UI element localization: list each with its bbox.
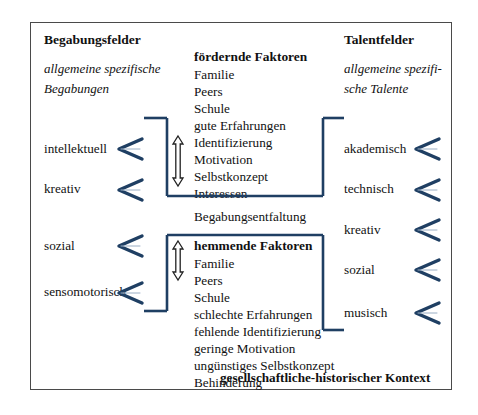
hindering-factor-item: Schule xyxy=(194,291,230,304)
left-field-intellektuell: intellektuell xyxy=(44,142,107,155)
hindering-factor-item: fehlende Identifizierung xyxy=(194,325,321,338)
hindering-factor-item: geringe Motivation xyxy=(194,342,295,355)
begabungsentfaltung-label: Begabungsentfaltung xyxy=(194,210,306,223)
right-subtitle-line-1: allgemeine spezifi- xyxy=(344,62,442,75)
promoting-factor-item: Interessen xyxy=(194,187,247,200)
right-field-akademisch: akademisch xyxy=(344,142,406,155)
right-field-technisch: technisch xyxy=(344,182,394,195)
left-field-sozial: sozial xyxy=(44,239,75,252)
promoting-factor-item: Selbstkonzept xyxy=(194,170,268,183)
right-subtitle-line-2: sche Talente xyxy=(344,82,408,95)
hindering-factor-item: Familie xyxy=(194,257,234,270)
hindering-factor-item: schlechte Erfahrungen xyxy=(194,308,312,321)
right-field-musisch: musisch xyxy=(344,306,387,319)
promoting-factor-item: Motivation xyxy=(194,153,253,166)
left-subtitle-line-1: allgemeine spezifische xyxy=(44,62,161,75)
right-field-kreativ: kreativ xyxy=(344,223,381,236)
left-field-kreativ: kreativ xyxy=(44,182,81,195)
promoting-factor-item: gute Erfahrungen xyxy=(194,119,286,132)
footer-context-label: gesellschaftliche-historischer Kontext xyxy=(220,371,430,384)
right-field-sozial: sozial xyxy=(344,263,375,276)
promoting-factors-heading: fördernde Faktoren xyxy=(194,50,307,63)
promoting-factor-item: Schule xyxy=(194,102,230,115)
hindering-factor-item: Peers xyxy=(194,274,223,287)
column-title-begabungsfelder: Begabungsfelder xyxy=(44,33,141,47)
promoting-factor-item: Familie xyxy=(194,68,234,81)
diagram-canvas: Begabungsfelder Talentfelder allgemeine … xyxy=(0,0,478,415)
column-title-talentfelder: Talentfelder xyxy=(344,33,414,47)
promoting-factor-item: Peers xyxy=(194,85,223,98)
hindering-factors-heading: hemmende Faktoren xyxy=(194,239,312,252)
left-field-sensomotorisch: sensomotorisch xyxy=(44,285,126,298)
promoting-factor-item: Identifizierung xyxy=(194,136,272,149)
left-subtitle-line-2: Begabungen xyxy=(44,82,109,95)
